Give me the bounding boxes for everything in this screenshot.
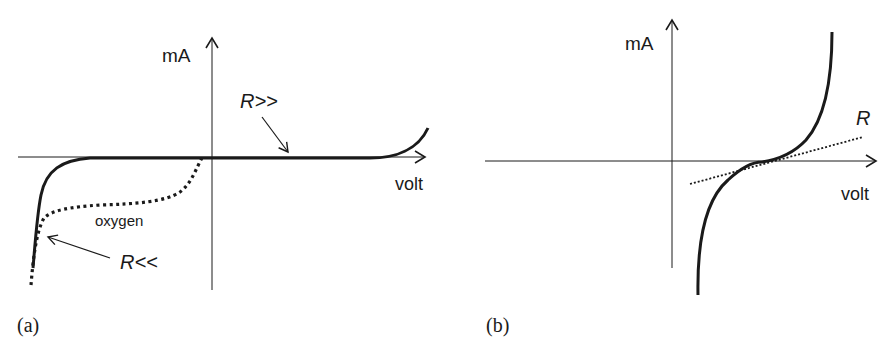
panel-a-x-axis-label: volt <box>395 174 423 194</box>
panel-b-y-axis-label: mA <box>625 33 654 54</box>
panel-a-iv-curve <box>33 128 428 268</box>
panel-a-y-axis-label: mA <box>162 45 191 66</box>
figure: mA volt R>> oxygen R<< (a) mA volt R (b) <box>0 0 893 355</box>
panel-a-r-high-label: R>> <box>240 90 278 112</box>
panel-b-x-axis-label: volt <box>841 184 869 204</box>
panel-a-r-low-arrow <box>48 237 110 258</box>
panel-b: mA volt R (b) <box>485 20 876 337</box>
panel-a-r-low-label: R<< <box>120 251 158 273</box>
panel-b-tangent-r-label: R <box>856 107 870 129</box>
panel-a-r-high-arrow <box>262 117 288 152</box>
panel-a-caption: (a) <box>17 314 39 337</box>
panel-a-oxygen-label: oxygen <box>95 212 143 229</box>
panel-b-caption: (b) <box>486 314 509 337</box>
panel-a: mA volt R>> oxygen R<< (a) <box>17 38 428 337</box>
